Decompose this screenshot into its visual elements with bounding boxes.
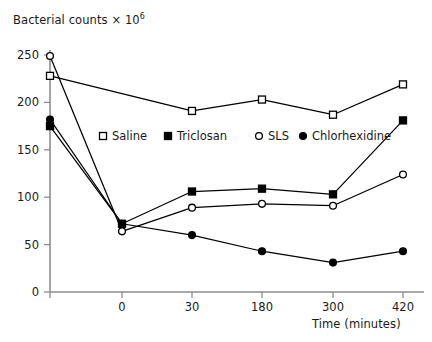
data-series-layer xyxy=(47,53,407,266)
datapoint-chlorhexidine-2 xyxy=(189,232,196,239)
datapoint-sls-4 xyxy=(330,202,337,209)
datapoint-saline-4 xyxy=(400,81,407,88)
x-tick-label-0: 0 xyxy=(118,300,125,314)
legend-label-sls: SLS xyxy=(268,129,289,143)
legend-marker-chlorhexidine xyxy=(300,133,307,140)
x-axis-tick-labels: 0 30 180 300 420 xyxy=(118,300,414,314)
series-line-saline xyxy=(50,76,403,115)
datapoint-triclosan-3 xyxy=(259,185,266,192)
y-axis-ticks xyxy=(44,55,50,292)
legend-item-sls[interactable]: SLS xyxy=(256,129,289,143)
legend-label-triclosan: Triclosan xyxy=(176,129,227,143)
datapoint-saline-3 xyxy=(330,111,337,118)
x-axis-ticks xyxy=(50,292,403,298)
datapoint-chlorhexidine-1 xyxy=(119,220,126,227)
series-saline xyxy=(47,72,407,118)
legend-label-saline: Saline xyxy=(112,129,147,143)
datapoint-saline-0 xyxy=(47,72,54,79)
chart-legend: SalineTriclosanSLSChlorhexidine xyxy=(100,129,392,143)
x-tick-label-30: 30 xyxy=(185,300,200,314)
y-tick-label-50: 50 xyxy=(24,238,39,252)
chart-figure: Bacterial counts × 106 Time (minutes) 0 … xyxy=(0,0,432,342)
x-tick-label-180: 180 xyxy=(251,300,273,314)
legend-item-chlorhexidine[interactable]: Chlorhexidine xyxy=(300,129,392,143)
datapoint-sls-3 xyxy=(259,200,266,207)
legend-item-triclosan[interactable]: Triclosan xyxy=(165,129,228,143)
datapoint-sls-5 xyxy=(400,171,407,178)
datapoint-chlorhexidine-0 xyxy=(47,116,54,123)
legend-marker-triclosan xyxy=(165,133,172,140)
datapoint-sls-0 xyxy=(47,53,54,60)
series-sls xyxy=(47,53,407,235)
datapoint-triclosan-4 xyxy=(330,191,337,198)
x-tick-label-420: 420 xyxy=(392,300,414,314)
legend-marker-sls xyxy=(256,133,263,140)
datapoint-chlorhexidine-4 xyxy=(330,259,337,266)
datapoint-triclosan-2 xyxy=(189,188,196,195)
legend-marker-saline xyxy=(100,133,107,140)
x-tick-label-300: 300 xyxy=(322,300,344,314)
datapoint-chlorhexidine-3 xyxy=(259,248,266,255)
y-tick-label-250: 250 xyxy=(17,48,39,62)
datapoint-chlorhexidine-5 xyxy=(400,248,407,255)
y-tick-label-200: 200 xyxy=(17,95,39,109)
datapoint-triclosan-5 xyxy=(400,117,407,124)
datapoint-saline-1 xyxy=(189,107,196,114)
series-line-sls xyxy=(50,56,403,231)
datapoint-sls-2 xyxy=(189,204,196,211)
datapoint-sls-1 xyxy=(119,228,126,235)
legend-item-saline[interactable]: Saline xyxy=(100,129,148,143)
y-tick-label-0: 0 xyxy=(32,285,39,299)
y-tick-label-150: 150 xyxy=(17,143,39,157)
chart-plot-area: 0 50 100 150 200 250 0 30 180 300 420 Sa xyxy=(0,0,432,342)
y-tick-label-100: 100 xyxy=(17,190,39,204)
y-axis-tick-labels: 0 50 100 150 200 250 xyxy=(17,48,39,299)
legend-label-chlorhexidine: Chlorhexidine xyxy=(312,129,391,143)
datapoint-saline-2 xyxy=(259,96,266,103)
